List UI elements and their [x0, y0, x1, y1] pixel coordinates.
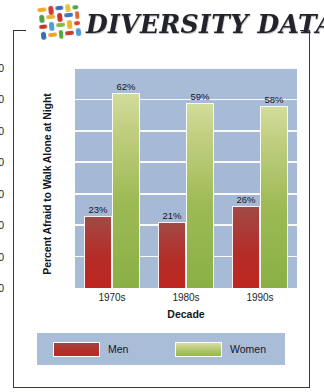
bar-men-1980s: 21% [158, 222, 186, 288]
y-axis-tick-label: 20 [0, 219, 4, 231]
logo-tile [39, 24, 47, 29]
chart-legend: Men Women [37, 333, 285, 365]
x-axis-tick-label: 1970s [98, 292, 125, 303]
logo-tile [64, 13, 73, 18]
legend-label-women: Women [230, 343, 266, 355]
logo-tile [49, 22, 55, 31]
logo-tile [65, 31, 74, 36]
y-axis-label: Percent Afraid to Walk Alone at Night [41, 84, 53, 284]
logo-tile [65, 4, 71, 12]
logo-tile [46, 14, 55, 19]
logo-tile [72, 5, 78, 10]
bar-value-label: 26% [236, 194, 255, 205]
y-axis-tick-label: 50 [0, 125, 4, 137]
x-axis-label: Decade [75, 308, 297, 320]
bar-women-1970s: 62% [112, 93, 140, 288]
header: DIVERSITY DATA [0, 0, 324, 50]
legend-swatch-men [53, 342, 100, 357]
bar-women-1990s: 58% [260, 106, 288, 288]
chart-container: Percent Afraid to Walk Alone at Night 23… [13, 30, 310, 388]
y-axis-tick-label: 70 [0, 62, 4, 74]
diversity-mosaic-logo [36, 2, 84, 46]
plot-area: 23%62%21%59%26%58% [75, 68, 297, 288]
logo-tile [48, 32, 57, 37]
bar-value-label: 58% [264, 94, 283, 105]
legend-swatch-women [175, 342, 222, 357]
page-title: DIVERSITY DATA [86, 5, 286, 45]
x-axis-tick-label: 1990s [246, 292, 273, 303]
gridline [75, 67, 297, 69]
y-axis-tick-label: 30 [0, 188, 4, 200]
logo-tile [39, 15, 45, 23]
y-axis-tick-label: 40 [0, 156, 4, 168]
bar-men-1970s: 23% [84, 216, 112, 288]
logo-tile [76, 28, 82, 36]
legend-label-men: Men [108, 343, 128, 355]
logo-tile [55, 6, 63, 11]
y-axis-tick-label: 0 [0, 282, 4, 294]
bar-value-label: 21% [162, 210, 181, 221]
x-axis-tick-label: 1980s [172, 292, 199, 303]
bar-men-1990s: 26% [232, 206, 260, 288]
legend-item-men: Men [53, 342, 128, 357]
logo-tile [57, 13, 63, 22]
logo-tile [56, 22, 65, 27]
bar-value-label: 23% [88, 204, 107, 215]
legend-item-women: Women [175, 342, 266, 357]
logo-tile [59, 30, 64, 39]
logo-tile [37, 7, 46, 12]
y-axis-tick-label: 10 [0, 251, 4, 263]
logo-tile [67, 20, 73, 29]
bar-women-1980s: 59% [186, 103, 214, 288]
bar-value-label: 59% [190, 91, 209, 102]
y-axis-tick-label: 60 [0, 93, 4, 105]
logo-tile [74, 21, 80, 26]
logo-tile [41, 32, 47, 40]
bar-value-label: 62% [116, 81, 135, 92]
logo-tile [75, 11, 80, 19]
